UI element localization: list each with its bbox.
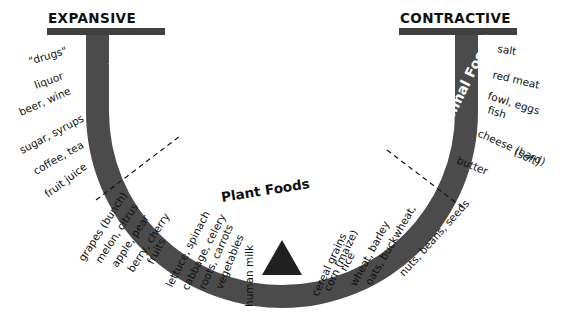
expansive-header-label: EXPANSIVE (48, 10, 136, 26)
contractive-header-label: CONTRACTIVE (400, 10, 511, 26)
contractive-header-bar (399, 28, 517, 35)
left-outer-items-group: "drugs" liquor beer, wine sugar, syrups … (17, 44, 89, 200)
food-spectrum-diagram: EXPANSIVE CONTRACTIVE Derivatives Animal… (0, 0, 569, 325)
plant-foods-band-label: Plant Foods (220, 175, 311, 205)
list-item: "drugs" (27, 44, 68, 67)
diagram-canvas: EXPANSIVE CONTRACTIVE Derivatives Animal… (0, 0, 569, 325)
list-item: red meat (492, 68, 541, 90)
human-milk-label: human milk (243, 244, 255, 307)
list-item: beer, wine (17, 84, 72, 117)
list-item: salt (497, 42, 518, 57)
fulcrum-triangle (262, 240, 302, 275)
expansive-header-bar (47, 28, 165, 35)
derivatives-band-label: Derivatives (105, 56, 159, 144)
